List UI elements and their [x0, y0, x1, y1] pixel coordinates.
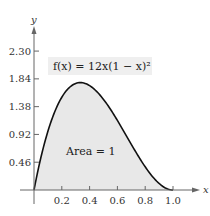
- x-tick-label: 0.6: [109, 195, 125, 206]
- x-axis-label: x: [203, 184, 209, 195]
- y-tick-label: 0.46: [9, 157, 31, 168]
- equation-label: f(x) = 12x(1 − x)²: [53, 60, 151, 73]
- y-axis-arrow-icon: [32, 26, 37, 34]
- y-tick-label: 1.84: [9, 73, 31, 84]
- y-axis-label: y: [30, 14, 37, 25]
- x-tick-label: 0.2: [54, 195, 70, 206]
- area-annotation: Area = 1: [65, 145, 115, 158]
- chart: x y 0.20.40.60.81.0 0.460.921.381.842.30…: [0, 0, 210, 216]
- x-tick-label: 1.0: [165, 195, 181, 206]
- y-tick-label: 0.92: [9, 129, 31, 140]
- y-tick-label: 1.38: [9, 101, 31, 112]
- x-tick-label: 0.4: [82, 195, 98, 206]
- y-tick-label: 2.30: [9, 46, 31, 57]
- x-tick-label: 0.8: [137, 195, 153, 206]
- x-axis-arrow-icon: [192, 188, 200, 193]
